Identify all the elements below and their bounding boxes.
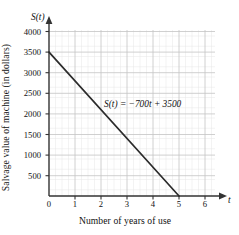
x-tick-label-1: 1 [68, 200, 82, 209]
x-tick-label-6: 6 [198, 200, 212, 209]
y-tick-label-3000: 3000 [15, 69, 41, 78]
y-tick-label-3500: 3500 [15, 48, 41, 57]
y-tick-label-1500: 1500 [15, 131, 41, 140]
minor-gridlines-vertical [56, 30, 212, 196]
x-axis-variable-label: t [228, 196, 231, 205]
minor-gridlines-horizontal [49, 36, 215, 190]
y-axis-title: Salvage value of machine (in dollars) [0, 0, 16, 235]
equation-annotation: S(t) = −700t + 3500 [104, 100, 181, 109]
x-tick-label-3: 3 [120, 200, 134, 209]
y-tick-label-4000: 4000 [15, 28, 41, 37]
x-tick-label-2: 2 [94, 200, 108, 209]
x-tick-label-0: 0 [42, 200, 56, 209]
y-tick-label-2000: 2000 [15, 110, 41, 119]
x-tick-label-5: 5 [172, 200, 186, 209]
y-tick-label-1000: 1000 [15, 151, 41, 160]
x-axis-title: Number of years of use [30, 215, 220, 226]
y-tick-label-2500: 2500 [15, 89, 41, 98]
y-axis-variable-label: S(t) [31, 13, 45, 22]
salvage-value-chart: Salvage value of machine (in dollars) Nu… [0, 0, 239, 235]
x-tick-label-4: 4 [146, 200, 160, 209]
y-tick-label-500: 500 [15, 172, 41, 181]
